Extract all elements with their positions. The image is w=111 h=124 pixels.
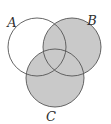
set-label-c: C	[46, 109, 56, 124]
set-label-b: B	[86, 13, 97, 28]
venn-diagram-figure: A B C	[0, 0, 111, 124]
set-label-a: A	[6, 15, 16, 30]
venn-diagram-canvas: A B C	[0, 0, 111, 124]
shaded-union-region	[26, 18, 101, 107]
